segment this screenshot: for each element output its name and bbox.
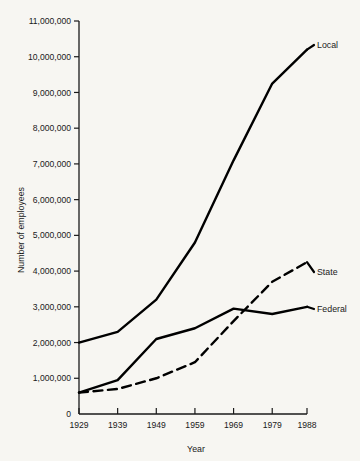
y-tick-label: 8,000,000 — [33, 123, 71, 133]
y-tick-label: 1,000,000 — [33, 373, 71, 383]
series-label-local: Local — [317, 40, 338, 50]
series-line-federal — [79, 307, 307, 393]
line-chart: 01,000,0002,000,0003,000,0004,000,0005,0… — [0, 0, 360, 461]
y-axis: 01,000,0002,000,0003,000,0004,000,0005,0… — [28, 16, 79, 419]
y-axis-title: Number of employees — [16, 186, 26, 273]
series-label-federal: Federal — [317, 304, 347, 314]
y-tick-label: 10,000,000 — [28, 52, 71, 62]
y-tick-label: 4,000,000 — [33, 266, 71, 276]
y-tick-label: 5,000,000 — [33, 230, 71, 240]
x-tick-label: 1929 — [69, 420, 88, 430]
series-label-state: State — [317, 267, 338, 277]
series-lines — [79, 50, 307, 393]
y-tick-label: 7,000,000 — [33, 159, 71, 169]
x-tick-label: 1949 — [147, 420, 166, 430]
y-tick-label: 3,000,000 — [33, 302, 71, 312]
x-axis-title: Year — [187, 444, 205, 454]
y-tick-label: 11,000,000 — [29, 16, 72, 26]
y-tick-label: 0 — [66, 409, 71, 419]
chart-container: 01,000,0002,000,0003,000,0004,000,0005,0… — [0, 0, 360, 461]
x-tick-label: 1979 — [263, 420, 282, 430]
x-tick-label: 1969 — [224, 420, 243, 430]
series-line-state — [79, 262, 307, 392]
y-tick-label: 6,000,000 — [33, 195, 71, 205]
series-line-local — [79, 50, 307, 343]
series-labels: LocalStateFederal — [307, 40, 347, 314]
series-leader-local — [307, 45, 314, 50]
x-tick-label: 1939 — [108, 420, 127, 430]
x-tick-label: 1988 — [297, 420, 316, 430]
x-tick-label: 1959 — [185, 420, 204, 430]
y-tick-label: 2,000,000 — [33, 338, 71, 348]
y-tick-label: 9,000,000 — [33, 88, 71, 98]
series-leader-state — [307, 262, 314, 272]
series-leader-federal — [307, 307, 314, 309]
x-axis: 1929193919491959196919791988 — [69, 408, 316, 430]
